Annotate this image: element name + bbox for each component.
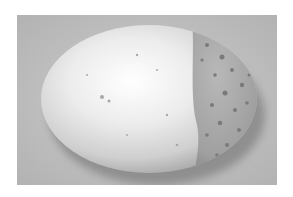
- egg-illustration: [17, 15, 277, 185]
- egg-photo: [17, 15, 277, 185]
